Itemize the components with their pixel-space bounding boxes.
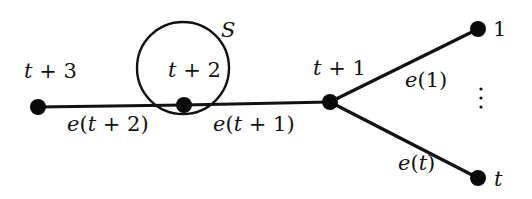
label-node-t-plus-3: t + 3 (24, 59, 77, 83)
label-node-t-plus-1: t + 1 (313, 56, 366, 80)
node-1 (470, 21, 486, 37)
node-t-plus-1 (322, 94, 338, 110)
edge-t3-t2 (38, 105, 184, 107)
edge-t2-t1 (184, 102, 330, 105)
label-node-1: 1 (493, 17, 506, 41)
label-edge-1: e(1) (405, 68, 447, 92)
label-node-t-plus-2: t + 2 (168, 58, 221, 82)
label-edge-t-plus-1: e(t + 1) (213, 112, 295, 136)
vertical-ellipsis (479, 87, 482, 108)
label-edge-t-plus-2: e(t + 2) (67, 112, 149, 136)
label-edge-t: e(t) (398, 151, 435, 175)
label-node-t: t (494, 167, 503, 191)
node-t (470, 170, 486, 186)
node-t-plus-2 (176, 97, 192, 113)
label-set-s: S (221, 18, 235, 42)
node-t-plus-3 (30, 99, 46, 115)
tree-diagram: t + 3 t + 2 t + 1 1 t S e(t + 2) e(t + 1… (0, 0, 532, 199)
